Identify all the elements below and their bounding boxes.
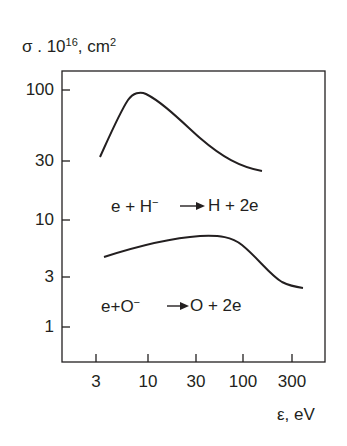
x-tick-label-30: 30 <box>176 372 216 392</box>
x-tick-label-3: 3 <box>76 372 116 392</box>
o-reaction-left-text: e+O <box>101 297 134 316</box>
plot-frame <box>62 71 325 362</box>
o-reaction-left: e+O− <box>101 296 140 317</box>
x-axis-label: ε, eV <box>277 405 315 425</box>
h-reaction-charge: − <box>152 196 158 208</box>
y-tick-label-1: 1 <box>18 317 54 337</box>
h-arrow-icon <box>180 202 205 210</box>
x-tick-label-100: 100 <box>223 372 263 392</box>
o-reaction-right: O + 2e <box>190 296 242 316</box>
o-reaction-charge: − <box>134 296 140 308</box>
y-tick-label-10: 10 <box>18 210 54 230</box>
y-tick-label-30: 30 <box>18 151 54 171</box>
h-reaction-right: H + 2e <box>208 196 259 216</box>
y-tick-label-3: 3 <box>18 267 54 287</box>
y-ticks <box>62 90 70 327</box>
h-reaction-left-text: e + H <box>111 197 152 216</box>
series-h-minus-curve <box>100 93 262 171</box>
x-tick-label-300: 300 <box>272 372 312 392</box>
o-arrow-icon <box>167 302 189 310</box>
x-tick-label-10: 10 <box>128 372 168 392</box>
h-reaction-left: e + H− <box>111 196 159 217</box>
x-ticks <box>96 354 292 362</box>
y-tick-label-100: 100 <box>18 80 54 100</box>
series-o-minus-curve <box>104 236 303 288</box>
